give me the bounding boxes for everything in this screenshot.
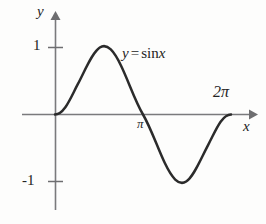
x-tick-label-two-pi: 2π xyxy=(213,83,229,101)
x-tick-label-pi: π xyxy=(137,116,144,132)
sine-graph-figure: y x 1 -1 π 2π y=sinx xyxy=(0,0,266,224)
y-tick-label-negative-one: -1 xyxy=(22,172,35,189)
equation-lhs: y xyxy=(122,45,129,61)
curve-equation-label: y=sinx xyxy=(122,45,165,62)
equation-equals-sign: = xyxy=(129,45,141,61)
y-axis-label: y xyxy=(37,3,44,20)
y-tick-label-one: 1 xyxy=(33,37,41,54)
y-axis-arrowhead xyxy=(51,11,61,20)
equation-argument: x xyxy=(159,45,166,61)
plot-canvas xyxy=(0,0,266,224)
equation-function-name: sin xyxy=(141,45,159,61)
x-axis-arrowhead xyxy=(249,110,258,120)
x-axis-label: x xyxy=(243,118,250,135)
